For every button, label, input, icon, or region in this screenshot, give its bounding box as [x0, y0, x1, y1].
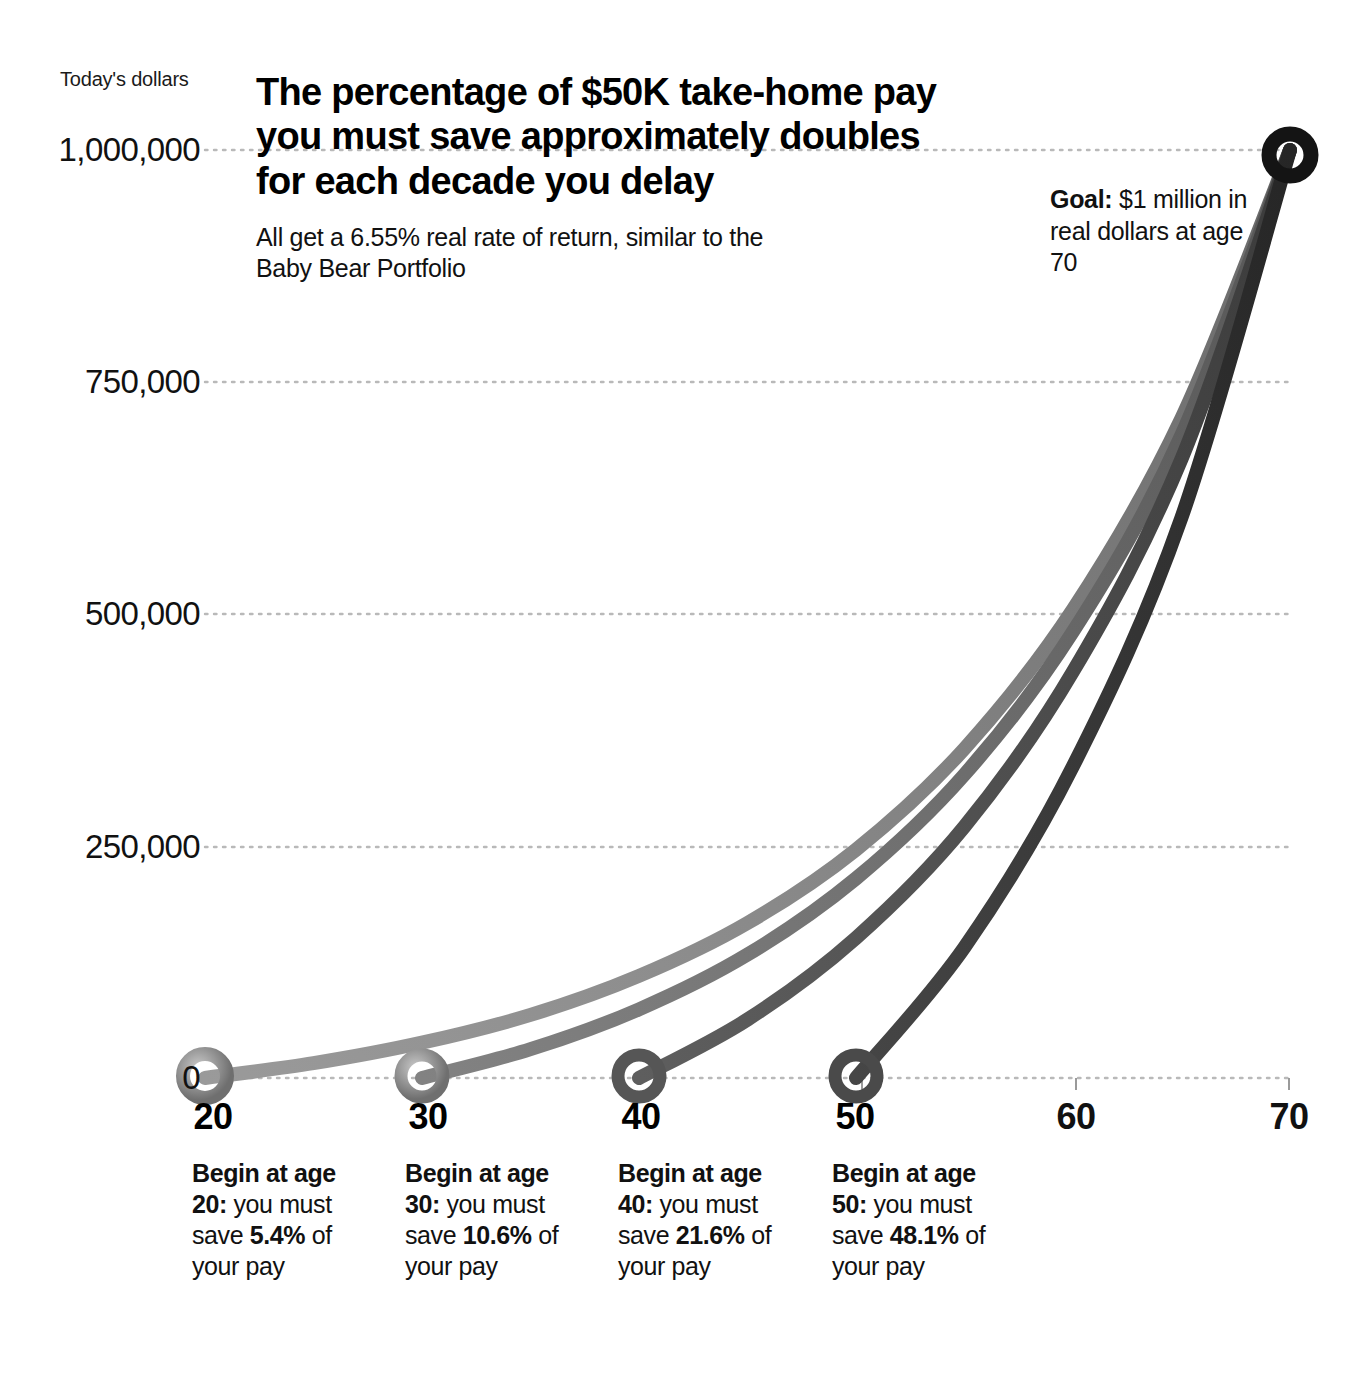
chart-title: The percentage of $50K take-home pay you…: [256, 70, 956, 203]
note-age-50-pct: 48.1%: [890, 1221, 959, 1249]
note-age-20-pct: 5.4%: [250, 1221, 305, 1249]
ytick-label-250000: 250,000: [85, 828, 200, 866]
chart-subtitle: All get a 6.55% real rate of return, sim…: [256, 222, 776, 283]
gridlines: [205, 150, 1290, 1078]
goal-annotation: Goal: $1 million in real dollars at age …: [1050, 184, 1270, 279]
note-age-30-pct: 10.6%: [463, 1221, 532, 1249]
note-age-40: Begin at age 40: you must save 21.6% of …: [618, 1158, 790, 1282]
note-age-20: Begin at age 20: you must save 5.4% of y…: [192, 1158, 364, 1282]
xtick-marks: [862, 1078, 1289, 1090]
xtick-label-70: 70: [1269, 1096, 1308, 1138]
goal-annotation-label: Goal:: [1050, 185, 1112, 213]
xtick-label-20: 20: [193, 1096, 232, 1138]
xtick-label-60: 60: [1056, 1096, 1095, 1138]
note-age-30: Begin at age 30: you must save 10.6% of …: [405, 1158, 577, 1282]
chart-canvas: Today's dollars 1,000,000 750,000 500,00…: [0, 0, 1371, 1386]
note-age-40-pct: 21.6%: [676, 1221, 745, 1249]
xtick-label-50: 50: [835, 1096, 874, 1138]
xtick-label-40: 40: [621, 1096, 660, 1138]
ytick-label-0: 0: [182, 1059, 200, 1097]
ytick-label-750000: 750,000: [85, 363, 200, 401]
note-age-50: Begin at age 50: you must save 48.1% of …: [832, 1158, 1004, 1282]
xtick-label-30: 30: [408, 1096, 447, 1138]
ytick-label-500000: 500,000: [85, 595, 200, 633]
ytick-label-1000000: 1,000,000: [59, 131, 200, 169]
y-axis-labels: 1,000,000 750,000 500,000 250,000 0: [0, 0, 200, 1386]
